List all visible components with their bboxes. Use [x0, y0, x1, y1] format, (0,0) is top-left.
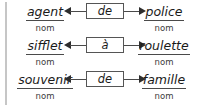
- left-pos-label: nom: [8, 57, 82, 68]
- right-pos-label: nom: [127, 23, 201, 34]
- diagram-row: sifflet nom à roulette nom: [0, 35, 209, 69]
- right-pos-label: nom: [127, 57, 201, 68]
- arrow-left-shaft: [70, 79, 86, 80]
- preposition-box: à: [86, 37, 124, 53]
- left-headword: sifflet: [26, 38, 63, 55]
- grammar-diagram: agent nom de police nom sifflet nom à: [0, 0, 209, 107]
- arrow-left-shaft: [70, 11, 86, 12]
- arrow-left-shaft: [70, 45, 86, 46]
- right-noun-group: roulette nom: [127, 35, 201, 68]
- right-headword: roulette: [138, 38, 189, 55]
- left-headword: agent: [26, 4, 64, 21]
- right-headword: police: [144, 4, 183, 21]
- preposition-box: de: [86, 71, 124, 87]
- right-noun-group: police nom: [127, 1, 201, 34]
- left-pos-label: nom: [8, 91, 82, 102]
- right-pos-label: nom: [127, 91, 201, 102]
- right-noun-group: famille nom: [127, 69, 201, 102]
- diagram-row: souvenir nom de famille nom: [0, 69, 209, 103]
- left-pos-label: nom: [8, 23, 82, 34]
- preposition-box: de: [86, 3, 124, 19]
- right-headword: famille: [142, 72, 186, 89]
- diagram-row: agent nom de police nom: [0, 1, 209, 35]
